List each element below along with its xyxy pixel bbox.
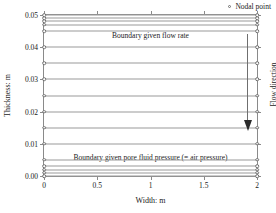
nodal-point [255,29,259,33]
mesh-line [44,143,257,144]
mesh-line [44,79,257,80]
x-tick [97,176,98,180]
nodal-point [255,165,259,169]
mesh-line [44,166,257,167]
nodal-point [255,171,259,175]
mesh-line [44,24,257,25]
x-tick [151,176,152,180]
annotation-top-boundary: Boundary given flow rate [44,31,257,40]
x-tick-label: 2 [255,181,259,190]
nodal-point [42,158,46,162]
y-tick-label: 0.04 [25,43,38,52]
mesh-line [44,172,257,173]
flow-arrow-head-icon [244,120,252,131]
nodal-point [42,78,46,82]
nodal-point [255,23,259,27]
nodal-point [42,165,46,169]
nodal-point-icon [228,5,232,9]
nodal-point [42,168,46,172]
mesh-line [44,95,257,96]
mesh-line [44,176,257,177]
nodal-point [42,20,46,24]
mesh-line [44,15,257,16]
flow-direction-label-wrap: Flow direction [252,34,276,134]
nodal-point [42,13,46,17]
mesh-line [44,111,257,112]
x-axis-title: Width: m [43,196,258,205]
y-tick-label: 0.05 [25,11,38,20]
mesh-line [44,127,257,128]
y-tick-label: 0.02 [25,107,38,116]
x-tick-label: 1 [149,181,153,190]
nodal-point [42,94,46,98]
y-tick-label: 0.00 [25,172,38,181]
nodal-point [42,126,46,130]
flow-arrow-shaft [247,34,248,122]
mesh-line [44,21,257,22]
annotation-bottom-boundary: Boundary given pore fluid pressure (= ai… [44,153,257,162]
nodal-point [42,16,46,20]
nodal-point [42,45,46,49]
mesh-line [44,31,257,32]
flow-direction-annotation: Flow direction [243,34,273,134]
nodal-point [42,142,46,146]
x-tick-label: 0 [42,181,46,190]
x-tick-label: 0.5 [93,181,102,190]
nodal-point [42,110,46,114]
x-tick-label: 1.5 [199,181,208,190]
mesh-line [44,169,257,170]
legend-label-nodal-point: Nodal point [235,2,271,11]
nodal-point [255,174,259,178]
nodal-point [42,23,46,27]
nodal-point [42,174,46,178]
mesh-line [44,47,257,48]
nodal-point [255,158,259,162]
y-axis-title: Thickness: m [2,14,12,177]
x-tick [204,176,205,180]
nodal-point [255,168,259,172]
nodal-point [255,142,259,146]
nodal-point [42,171,46,175]
nodal-point [255,16,259,20]
nodal-point [42,62,46,66]
nodal-point [255,13,259,17]
plot-area: Boundary given flow rate Boundary given … [43,14,258,177]
figure: Nodal point Thickness: m Width: m Bounda… [0,0,276,213]
y-tick-label: 0.03 [25,75,38,84]
y-tick-label: 0.01 [25,139,38,148]
legend: Nodal point [227,2,272,11]
mesh-line [44,63,257,64]
mesh-line [44,18,257,19]
nodal-point [42,29,46,33]
mesh-line [44,159,257,160]
nodal-point [255,20,259,24]
